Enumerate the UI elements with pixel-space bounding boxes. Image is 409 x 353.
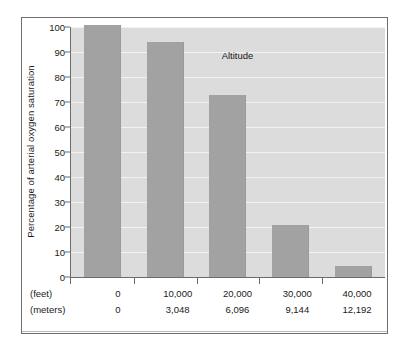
bar-slot: [197, 27, 260, 277]
y-axis-tick-label: 100: [49, 22, 65, 33]
x-axis-tick-mark: [322, 278, 323, 284]
x-axis-tick-label: 30,000: [267, 286, 327, 301]
bar-slot: [259, 27, 322, 277]
y-axis-tick-label: 30: [54, 197, 65, 208]
x-axis-tick-label: 9,144: [267, 302, 327, 317]
x-axis-tick-label: 40,000: [327, 286, 387, 301]
x-axis-tick-label: 20,000: [208, 286, 268, 301]
plot-area: [70, 27, 385, 284]
bar: [84, 25, 121, 278]
x-axis-value-group: 03,0486,0969,14412,192: [88, 302, 387, 317]
y-axis-tick-label: 80: [54, 72, 65, 83]
x-axis-label-table: (feet)010,00020,00030,00040,000(meters)0…: [22, 286, 387, 333]
y-axis-title-text: Percentage of arterial oxygen saturation: [25, 65, 36, 237]
bar-slot: [71, 27, 134, 277]
bar: [147, 42, 184, 277]
y-axis-tick-label: 40: [54, 172, 65, 183]
y-axis-tick-label: 20: [54, 222, 65, 233]
x-axis-tick-mark: [259, 278, 260, 284]
y-axis-title: Percentage of arterial oxygen saturation: [22, 18, 38, 284]
y-axis-tick-label: 70: [54, 97, 65, 108]
x-axis-label-row: (feet)010,00020,00030,00040,000: [22, 286, 387, 301]
bar-slot: [322, 27, 385, 277]
x-axis-label-row: (meters)03,0486,0969,14412,192: [22, 302, 387, 317]
x-axis-unit-label: (meters): [22, 304, 88, 315]
x-axis-unit-label: (feet): [22, 288, 88, 299]
bar: [335, 266, 372, 277]
chart-figure: Percentage of arterial oxygen saturation…: [21, 17, 388, 334]
x-axis-tick-marks: [71, 278, 385, 284]
y-axis-tick-label: 50: [54, 147, 65, 158]
x-axis-tick-mark: [197, 278, 198, 284]
x-axis-title: Altitude: [88, 50, 387, 61]
bar-slot: [134, 27, 197, 277]
x-axis-tick-label: 0: [88, 286, 148, 301]
x-axis-tick-label: 0: [88, 302, 148, 317]
table-divider: [22, 331, 387, 332]
x-axis-tick-label: 3,048: [148, 302, 208, 317]
x-axis-tick-mark: [134, 278, 135, 284]
bar: [209, 95, 246, 278]
bar-series: [71, 27, 385, 277]
bar: [272, 225, 309, 278]
x-axis-tick-label: 6,096: [208, 302, 268, 317]
y-axis-tick-label: 90: [54, 47, 65, 58]
x-axis-value-group: 010,00020,00030,00040,000: [88, 286, 387, 301]
y-axis-tick-label: 60: [54, 122, 65, 133]
x-axis-tick-label: 10,000: [148, 286, 208, 301]
x-axis-tick-label: 12,192: [327, 302, 387, 317]
y-axis-tick-labels: 0102030405060708090100: [38, 18, 70, 284]
y-axis-tick-label: 10: [54, 247, 65, 258]
